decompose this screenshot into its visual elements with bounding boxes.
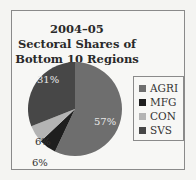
swatch-con bbox=[139, 113, 146, 120]
title-line-2: Sectoral Shares of bbox=[12, 37, 142, 52]
label-svs: 31% bbox=[37, 74, 59, 85]
label-con: 6% bbox=[35, 136, 51, 147]
legend-item-con: CON bbox=[139, 109, 183, 123]
legend-item-svs: SVS bbox=[139, 123, 183, 137]
swatch-svs bbox=[139, 127, 146, 134]
swatch-mfg bbox=[139, 99, 146, 106]
swatch-agri bbox=[139, 85, 146, 92]
legend: AGRI MFG CON SVS bbox=[133, 76, 184, 141]
legend-item-mfg: MFG bbox=[139, 95, 183, 109]
label-agri: 57% bbox=[94, 116, 116, 127]
chart-frame: 2004–05 Sectoral Shares of Bottom 10 Reg… bbox=[11, 10, 185, 170]
title-line-1: 2004–05 bbox=[12, 22, 142, 37]
legend-item-agri: AGRI bbox=[139, 81, 183, 95]
label-mfg: 6% bbox=[32, 157, 48, 168]
